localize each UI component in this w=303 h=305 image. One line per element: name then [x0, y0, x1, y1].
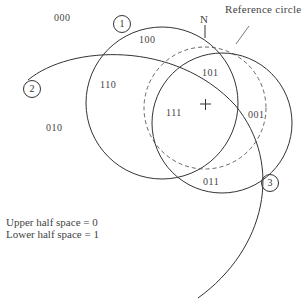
north-label: N — [200, 13, 208, 25]
region-111: 111 — [166, 107, 182, 118]
region-000: 000 — [54, 12, 71, 23]
region-001: 001 — [248, 109, 265, 120]
plane-label-3: 3 — [261, 174, 279, 192]
region-011: 011 — [203, 176, 219, 187]
legend: Upper half space = 0 Lower half space = … — [6, 216, 99, 240]
region-010: 010 — [46, 122, 63, 133]
plane-1-circle — [86, 27, 238, 179]
reference-circle-label: Reference circle — [225, 3, 302, 15]
region-101: 101 — [202, 67, 219, 78]
legend-lower: Lower half space = 1 — [6, 228, 99, 240]
region-110: 110 — [100, 79, 116, 90]
region-100: 100 — [139, 34, 156, 45]
reference-leader-line — [236, 26, 249, 44]
diagram-canvas — [0, 0, 303, 305]
plane-3-circle — [152, 53, 292, 193]
plane-label-2: 2 — [23, 80, 41, 98]
plane-label-1: 1 — [113, 15, 131, 33]
legend-upper: Upper half space = 0 — [6, 216, 99, 228]
plane-2-arc — [28, 55, 263, 298]
